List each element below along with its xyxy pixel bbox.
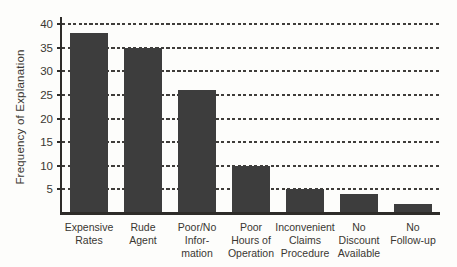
category-label-6: NoDiscountAvailable xyxy=(338,221,380,260)
bar-3 xyxy=(178,90,216,213)
gridline-35 xyxy=(62,47,440,49)
y-axis-line xyxy=(60,17,62,213)
bar-5 xyxy=(286,189,324,213)
category-label-line: Operation xyxy=(228,247,274,260)
gridline-15 xyxy=(62,141,440,143)
y-tick-label-20: 20 xyxy=(40,113,53,125)
category-label-line: No xyxy=(390,221,436,234)
category-label-1: ExpensiveRates xyxy=(65,221,113,247)
bar-1 xyxy=(70,33,108,213)
gridline-20 xyxy=(62,118,440,120)
gridline-30 xyxy=(62,70,440,72)
category-label-line: No xyxy=(338,221,380,234)
category-label-line: mation xyxy=(178,247,217,260)
category-label-7: NoFollow-up xyxy=(390,221,436,247)
category-label-line: Available xyxy=(338,247,380,260)
category-label-5: InconvenientClaimsProcedure xyxy=(275,221,335,260)
category-label-line: Expensive xyxy=(65,221,113,234)
category-label-line: Infor- xyxy=(178,234,217,247)
category-label-line: Rates xyxy=(65,234,113,247)
gridline-40 xyxy=(62,23,440,25)
bar-6 xyxy=(340,194,378,213)
category-label-3: Poor/NoInfor-mation xyxy=(178,221,217,260)
category-label-line: Claims xyxy=(275,234,335,247)
category-label-line: Poor/No xyxy=(178,221,217,234)
category-label-line: Inconvenient xyxy=(275,221,335,234)
gridline-25 xyxy=(62,94,440,96)
y-tick-label-15: 15 xyxy=(40,136,53,148)
plot-area: 510152025303540 ExpensiveRatesRudeAgentP… xyxy=(62,24,440,213)
category-label-line: Follow-up xyxy=(390,234,436,247)
y-tick-label-25: 25 xyxy=(40,89,53,101)
category-label-line: Poor xyxy=(228,221,274,234)
y-tick-label-5: 5 xyxy=(47,183,53,195)
category-label-4: PoorHours ofOperation xyxy=(228,221,274,260)
category-label-line: Discount xyxy=(338,234,380,247)
y-tick-label-10: 10 xyxy=(40,160,53,172)
y-tick-label-30: 30 xyxy=(40,65,53,77)
bar-chart-figure: Frequency of Explanation 510152025303540… xyxy=(0,0,457,267)
bar-4 xyxy=(232,166,270,213)
y-tick-label-40: 40 xyxy=(40,18,53,30)
bar-2 xyxy=(124,48,162,213)
x-axis-line xyxy=(60,212,440,216)
category-label-line: Hours of xyxy=(228,234,274,247)
category-label-2: RudeAgent xyxy=(129,221,156,247)
category-label-line: Agent xyxy=(129,234,156,247)
y-axis-title: Frequency of Explanation xyxy=(14,49,26,184)
category-label-line: Procedure xyxy=(275,247,335,260)
category-label-line: Rude xyxy=(129,221,156,234)
y-tick-label-35: 35 xyxy=(40,42,53,54)
